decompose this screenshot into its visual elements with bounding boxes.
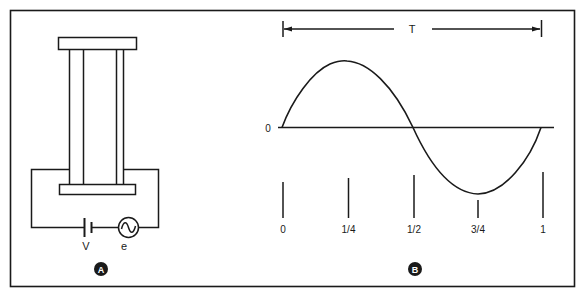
panel-a: V e A: [32, 38, 159, 277]
tick-label-1-4: 1/4: [342, 224, 356, 235]
wire-right: [124, 170, 159, 228]
ac-source-label: e: [121, 240, 127, 252]
bottom-plate: [60, 185, 136, 195]
battery-icon: [85, 218, 92, 237]
ac-source-icon: [119, 218, 139, 238]
top-plate: [59, 38, 137, 50]
arrow-left-icon: [284, 27, 292, 32]
tick-label-1-2: 1/2: [407, 224, 421, 235]
period-label: T: [409, 23, 416, 35]
panel-a-badge: A: [94, 262, 108, 276]
figure-frame: [11, 11, 575, 287]
arrow-right-icon: [532, 27, 541, 32]
panel-a-badge-label: A: [98, 265, 105, 275]
panel-b: T 0 0 1/4 1/2 3/4 1 B: [265, 20, 554, 276]
figure: V e A T 0: [0, 0, 586, 294]
tick-label-3-4: 3/4: [471, 224, 485, 235]
zero-label: 0: [265, 123, 271, 134]
panel-b-badge: B: [408, 262, 422, 276]
panel-b-badge-label: B: [412, 265, 419, 275]
tick-label-1: 1: [540, 224, 546, 235]
tick-label-0: 0: [280, 224, 286, 235]
battery-label: V: [82, 240, 90, 252]
wire-left: [32, 170, 85, 228]
